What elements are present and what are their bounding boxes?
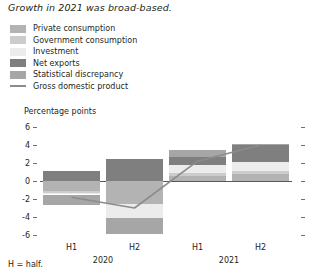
y-axis-tick-mark: [33, 199, 37, 200]
x-axis-tick-label: H2: [129, 243, 140, 252]
bar-segment: [106, 181, 163, 204]
x-axis-group-label: 2020: [93, 256, 113, 265]
legend-item-label: Statistical discrepancy: [33, 70, 123, 79]
chart-legend: Private consumptionGovernment consumptio…: [10, 23, 137, 92]
square-swatch-icon: [10, 71, 26, 79]
legend-item-label: Investment: [33, 47, 78, 56]
legend-item-label: Net exports: [33, 59, 80, 68]
bar-segment: [169, 157, 226, 165]
y-axis-tick-mark-right: [301, 199, 305, 200]
bar-segment: [169, 150, 226, 157]
y-axis-tick-label: -6: [14, 231, 30, 240]
bar-segment: [232, 174, 289, 181]
legend-item[interactable]: Investment: [10, 46, 137, 58]
legend-item-label: Private consumption: [33, 24, 115, 33]
y-axis-tick-mark-right: [301, 235, 305, 236]
bar-group: [169, 127, 226, 235]
x-axis-tick-label: H1: [192, 243, 203, 252]
y-axis-tick-label: 4: [14, 141, 30, 150]
bar-segment: [43, 181, 100, 191]
x-axis-group-label: 2021: [219, 256, 239, 265]
bar-segment: [106, 159, 163, 182]
square-swatch-icon: [10, 25, 26, 33]
y-axis-tick-mark-right: [301, 127, 305, 128]
y-axis-tick-mark: [33, 217, 37, 218]
plot-area: 6420-2-4-6: [40, 127, 292, 235]
legend-item[interactable]: Gross domestic product: [10, 81, 137, 93]
bar-segment: [232, 171, 289, 174]
legend-item[interactable]: Government consumption: [10, 35, 137, 47]
x-axis-tick-label: H2: [255, 243, 266, 252]
bar-segment: [169, 173, 226, 176]
y-axis-unit-label: Percentage points: [24, 107, 96, 116]
bar-segment: [106, 218, 163, 234]
bar-segment: [232, 144, 289, 145]
y-axis-tick-mark: [33, 235, 37, 236]
y-axis-tick-mark: [33, 127, 37, 128]
x-axis-tick-label: H1: [66, 243, 77, 252]
line-swatch-icon: [10, 82, 26, 90]
bar-segment: [232, 162, 289, 171]
square-swatch-icon: [10, 36, 26, 44]
bar-segment: [169, 176, 226, 181]
y-axis-tick-label: -4: [14, 213, 30, 222]
legend-item[interactable]: Net exports: [10, 58, 137, 70]
bar-group: [43, 127, 100, 235]
legend-item[interactable]: Private consumption: [10, 23, 137, 35]
square-swatch-icon: [10, 59, 26, 67]
bar-segment: [232, 145, 289, 162]
y-axis-tick-label: -2: [14, 195, 30, 204]
legend-item[interactable]: Statistical discrepancy: [10, 69, 137, 81]
bar-segment: [106, 204, 163, 218]
y-axis-tick-label: 0: [14, 177, 30, 186]
bar-group: [232, 127, 289, 235]
y-axis-tick-mark: [33, 145, 37, 146]
y-axis-tick-mark: [33, 181, 37, 182]
bar-group: [106, 127, 163, 235]
y-axis-tick-mark: [33, 163, 37, 164]
chart-footnote: H = half.: [8, 260, 43, 269]
y-axis-tick-mark-right: [301, 217, 305, 218]
y-axis-tick-label: 6: [14, 123, 30, 132]
chart-container: Growth in 2021 was broad-based. Private …: [0, 0, 313, 275]
y-axis-tick-mark-right: [301, 163, 305, 164]
bar-segment: [43, 171, 100, 181]
y-axis-tick-label: 2: [14, 159, 30, 168]
square-swatch-icon: [10, 48, 26, 56]
bar-segment: [169, 165, 226, 173]
bar-segment: [43, 195, 100, 206]
y-axis-tick-mark-right: [301, 145, 305, 146]
legend-item-label: Government consumption: [33, 36, 137, 45]
y-axis-tick-mark-right: [301, 181, 305, 182]
chart-title: Growth in 2021 was broad-based.: [8, 2, 172, 13]
legend-item-label: Gross domestic product: [33, 82, 128, 91]
